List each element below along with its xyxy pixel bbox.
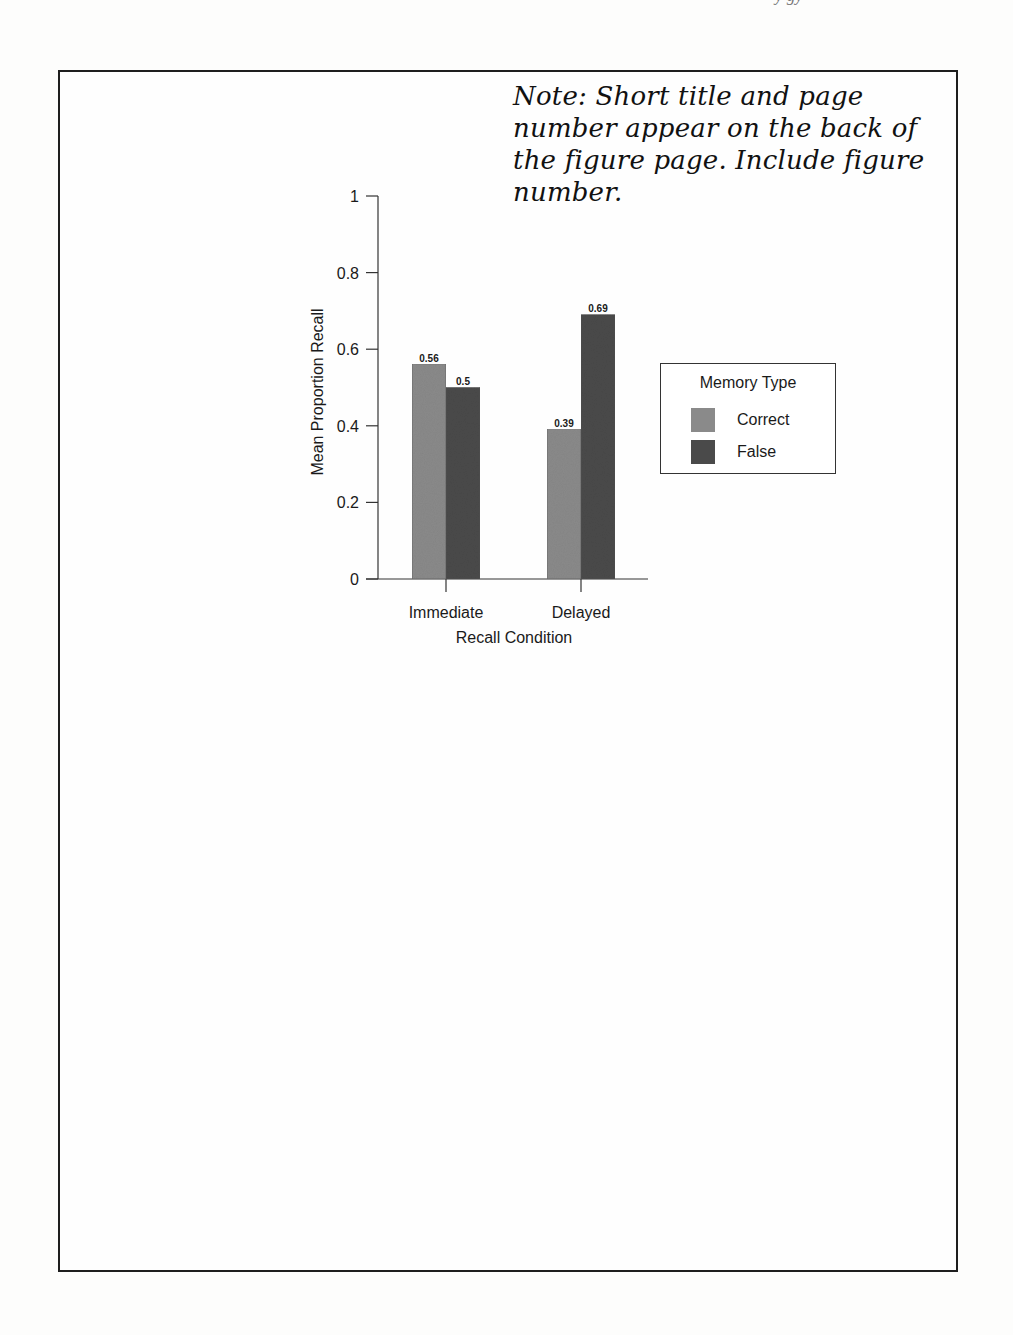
y-tick-label: 0 xyxy=(350,571,359,588)
y-axis-title: Mean Proportion Recall xyxy=(309,308,326,475)
x-category-immediate: Immediate xyxy=(409,604,484,621)
chart-legend: Memory Type Correct False xyxy=(660,363,836,474)
bar-immediate-correct xyxy=(412,365,446,579)
y-tick-label: 0.2 xyxy=(337,494,359,511)
x-axis-title: Recall Condition xyxy=(456,629,573,646)
legend-label: Correct xyxy=(737,411,789,429)
bar-delayed-false xyxy=(581,315,615,579)
bar-delayed-correct xyxy=(547,430,581,579)
bar-value-label: 0.56 xyxy=(419,353,439,364)
legend-swatch-correct xyxy=(691,408,715,432)
y-tick-label: 0.8 xyxy=(337,265,359,282)
bar-value-label: 0.69 xyxy=(588,303,608,314)
legend-item-false: False xyxy=(691,440,776,464)
legend-swatch-false xyxy=(691,440,715,464)
bar-value-label: 0.39 xyxy=(554,418,574,429)
x-axis xyxy=(366,579,648,592)
bar-value-label: 0.5 xyxy=(456,376,470,387)
legend-item-correct: Correct xyxy=(691,408,789,432)
legend-label: False xyxy=(737,443,776,461)
bars-group: 0.560.50.390.69 xyxy=(412,303,615,579)
bar-immediate-false xyxy=(446,388,480,580)
y-tick-label: 0.6 xyxy=(337,341,359,358)
y-tick-label: 0.4 xyxy=(337,418,359,435)
x-category-delayed: Delayed xyxy=(552,604,611,621)
y-tick-label: 1 xyxy=(350,188,359,205)
legend-title: Memory Type xyxy=(661,374,835,392)
y-axis: 00.20.40.60.81 xyxy=(337,188,378,588)
bar-chart: 00.20.40.60.81 0.560.50.390.69 Immediate… xyxy=(0,0,1013,1335)
